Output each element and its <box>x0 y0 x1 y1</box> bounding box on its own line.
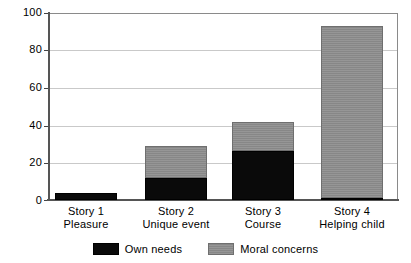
y-axis-line <box>48 12 50 201</box>
x-category-label-line1: Story 4 <box>306 205 398 218</box>
x-category-label-line1: Story 2 <box>131 205 221 218</box>
bar-segment-moral-concerns <box>232 122 294 152</box>
legend-swatch-own-needs <box>93 243 119 255</box>
y-tick-label-80: 80 <box>4 44 42 55</box>
y-tick-label-60: 60 <box>4 82 42 93</box>
bar-segment-own-needs <box>145 178 207 200</box>
legend-item-moral-concerns: Moral concerns <box>208 243 318 255</box>
bar-story-3 <box>232 122 294 201</box>
x-category-label-story-2: Story 2 Unique event <box>131 205 221 231</box>
y-tick-label-80-wrap: 80 <box>0 44 42 56</box>
y-tick-label-0: 0 <box>4 195 42 206</box>
y-tick-label-40-wrap: 40 <box>0 120 42 132</box>
bar-segment-own-needs <box>55 193 117 201</box>
bar-segment-moral-concerns <box>145 146 207 179</box>
y-tick-label-20: 20 <box>4 157 42 168</box>
x-category-label-line1: Story 3 <box>223 205 303 218</box>
bar-segment-moral-concerns <box>321 26 383 198</box>
x-category-label-line1: Story 1 <box>46 205 126 218</box>
y-tick-label-20-wrap: 20 <box>0 157 42 169</box>
bar-segment-own-needs <box>232 151 294 200</box>
x-category-label-story-1: Story 1 Pleasure <box>46 205 126 231</box>
legend-item-own-needs: Own needs <box>93 243 182 255</box>
y-tick-label-60-wrap: 60 <box>0 82 42 94</box>
x-category-label-story-3: Story 3 Course <box>223 205 303 231</box>
x-category-label-story-4: Story 4 Helping child <box>306 205 398 231</box>
bar-story-2 <box>145 146 207 200</box>
x-category-label-line2: Course <box>223 218 303 231</box>
y-tick-label-100-wrap: 100 <box>0 7 42 19</box>
bar-story-1 <box>55 193 117 201</box>
y-tick-label-40: 40 <box>4 120 42 131</box>
legend-label-own-needs: Own needs <box>125 244 182 255</box>
legend-label-moral-concerns: Moral concerns <box>240 244 318 255</box>
x-category-label-line2: Unique event <box>131 218 221 231</box>
chart-legend: Own needs Moral concerns <box>0 239 411 259</box>
bar-segment-own-needs <box>321 198 383 200</box>
y-tick-label-0-wrap: 0 <box>0 195 42 207</box>
x-category-label-line2: Pleasure <box>46 218 126 231</box>
stacked-bar-chart: 100 80 60 40 20 0 <box>0 0 411 263</box>
bar-story-4 <box>321 26 383 200</box>
y-tick-label-100: 100 <box>4 7 42 18</box>
legend-swatch-moral-concerns <box>208 243 234 255</box>
x-category-label-line2: Helping child <box>306 218 398 231</box>
